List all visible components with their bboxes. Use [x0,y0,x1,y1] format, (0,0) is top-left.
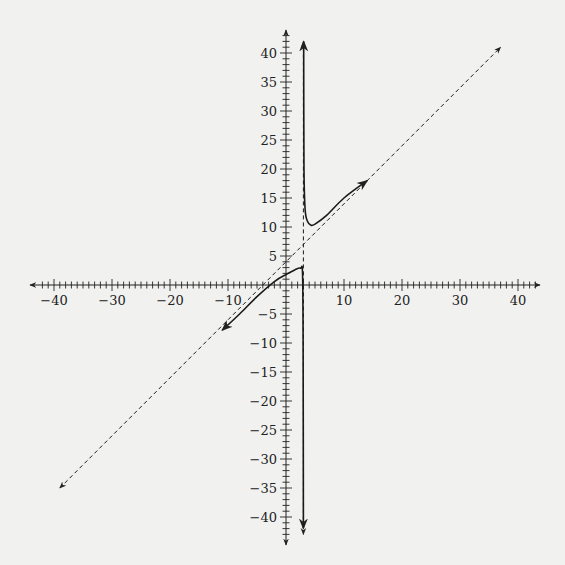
y-tick-label: 40 [260,46,277,61]
x-tick-label: 40 [510,293,527,308]
y-tick-label: 20 [260,162,277,177]
y-tick-label: 30 [260,104,277,119]
y-tick-label: −30 [250,452,277,467]
y-tick-label: −5 [258,307,277,322]
y-tick-label: −10 [250,336,277,351]
y-tick-label: 15 [260,191,277,206]
y-axis [280,30,292,545]
y-tick-label: 25 [260,133,277,148]
x-tick-label: −40 [40,293,67,308]
x-tick-labels: −40−30−20−1010203040 [40,293,526,308]
y-tick-label: −20 [250,394,277,409]
oblique-asymptote [60,47,501,488]
y-tick-label: 5 [269,249,277,264]
graph-canvas: −40−30−20−1010203040 403530252015105−5−1… [0,0,565,565]
x-tick-label: −30 [98,293,125,308]
x-tick-label: −10 [214,293,241,308]
y-tick-label: −15 [250,365,277,380]
x-axis [30,279,540,291]
y-tick-label: −35 [250,481,277,496]
x-tick-label: −20 [156,293,183,308]
y-tick-label: −40 [250,510,277,525]
x-tick-label: 20 [394,293,411,308]
y-tick-label: −25 [250,423,277,438]
curve-right-branch [304,41,368,225]
y-tick-label: 35 [260,75,277,90]
x-tick-label: 10 [336,293,353,308]
y-tick-label: 10 [260,220,277,235]
x-tick-label: 30 [452,293,469,308]
